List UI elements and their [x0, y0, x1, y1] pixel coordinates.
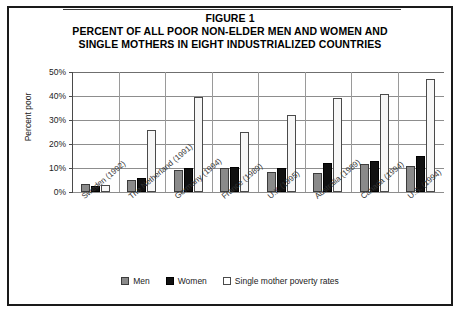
legend-item[interactable]: Women	[166, 276, 207, 286]
legend-label: Women	[178, 276, 207, 286]
y-axis-title: Percent poor	[23, 67, 33, 167]
group-separator	[258, 72, 259, 192]
figure-frame: FIGURE 1 PERCENT OF ALL POOR NON-ELDER M…	[7, 6, 453, 306]
y-tick-label-0: 0%	[36, 188, 66, 196]
group-separator	[165, 72, 166, 192]
group-separator	[119, 72, 120, 192]
legend-label: Single mother poverty rates	[235, 276, 339, 286]
group-separator	[351, 72, 352, 192]
y-tick-label-30: 30%	[36, 116, 66, 124]
y-tick-label-50: 50%	[36, 68, 66, 76]
x-axis-labels: Sweden (1992)The Netherland (1991)German…	[72, 194, 444, 274]
legend-label: Men	[133, 276, 150, 286]
legend-swatch-icon	[121, 277, 129, 285]
y-tick-label-40: 40%	[36, 92, 66, 100]
legend-item[interactable]: Single mother poverty rates	[223, 276, 339, 286]
group-separator	[305, 72, 306, 192]
legend-swatch-icon	[223, 277, 231, 285]
group-separator	[398, 72, 399, 192]
group-separator	[212, 72, 213, 192]
y-tick-label-20: 20%	[36, 140, 66, 148]
legend-item[interactable]: Men	[121, 276, 150, 286]
chart-legend: MenWomenSingle mother poverty rates	[9, 276, 451, 286]
chart-canvas: Percent poor 0%10%20%30%40%50% Sweden (1…	[9, 8, 451, 304]
legend-swatch-icon	[166, 277, 174, 285]
y-tick-label-10: 10%	[36, 164, 66, 172]
y-tick-mark-0	[69, 192, 73, 193]
